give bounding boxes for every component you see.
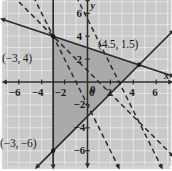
axis-arrowhead-2 bbox=[85, 0, 90, 1]
vertex-point bbox=[137, 63, 141, 67]
y-axis-name: y bbox=[91, 1, 95, 11]
vertex-point bbox=[51, 149, 55, 153]
graph-figure: −6−4−202466420−2−4−6yx(−3, 4)(4.5, 1.5)(… bbox=[0, 0, 172, 171]
x-tick-label-4: 4 bbox=[129, 87, 135, 98]
point-label-lower-left: (−3, −6) bbox=[0, 138, 36, 150]
y-tick-label--6: −6 bbox=[74, 145, 86, 156]
point-label-right: (4.5, 1.5) bbox=[98, 39, 138, 51]
y-tick-label--2: −2 bbox=[74, 99, 86, 110]
y-tick-label-6: 6 bbox=[77, 8, 83, 19]
vertex-point bbox=[51, 34, 55, 38]
x-axis-name: x bbox=[164, 71, 169, 81]
x-tick-label--6: −6 bbox=[9, 87, 21, 98]
x-tick-label-6: 6 bbox=[152, 87, 158, 98]
point-label-upper-left: (−3, 4) bbox=[2, 53, 32, 65]
origin-label: 0 bbox=[90, 84, 96, 95]
y-tick-label--4: −4 bbox=[74, 122, 86, 133]
x-tick-label--2: −2 bbox=[55, 87, 67, 98]
x-tick-label--4: −4 bbox=[32, 87, 44, 98]
x-tick-label-2: 2 bbox=[106, 87, 112, 98]
y-tick-label-2: 2 bbox=[77, 54, 83, 65]
y-tick-label-4: 4 bbox=[77, 31, 83, 42]
